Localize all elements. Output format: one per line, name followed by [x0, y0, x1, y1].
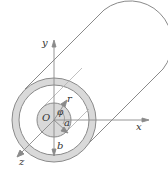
diagram-canvas — [0, 0, 168, 176]
z-axis-label: z — [19, 157, 24, 167]
r-label: r — [67, 94, 72, 104]
coaxial-cylinder-diagram: y x z O r φ a b — [0, 0, 168, 176]
x-axis-label: x — [136, 122, 142, 132]
y-axis-label: y — [42, 38, 48, 48]
x-axis-arrow-icon — [142, 118, 149, 122]
y-axis-arrow-icon — [52, 40, 56, 47]
phi-label: φ — [57, 108, 63, 117]
a-label: a — [64, 118, 70, 128]
origin-label: O — [42, 113, 50, 123]
b-label: b — [57, 141, 63, 151]
